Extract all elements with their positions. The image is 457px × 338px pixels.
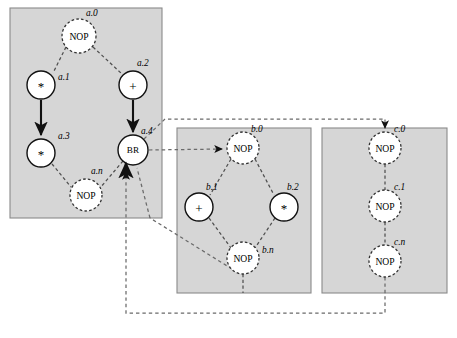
node-bn-tag: b.n xyxy=(262,245,274,255)
node-a0-label: NOP xyxy=(69,31,88,42)
node-bn-label: NOP xyxy=(233,253,252,264)
node-a3-label: * xyxy=(38,147,45,162)
node-b1-label: + xyxy=(195,201,202,216)
node-a0-tag: a.0 xyxy=(86,8,98,18)
node-cn-label: NOP xyxy=(375,256,394,267)
node-a4-label: BR xyxy=(127,145,140,155)
diagram-canvas: NOP a.0 * a.1 + a.2 * a.3 BR a.4 NOP a.n… xyxy=(0,0,457,338)
node-c1-tag: c.1 xyxy=(394,182,405,192)
node-b1-tag: b.1 xyxy=(206,182,218,192)
node-b0-label: NOP xyxy=(233,143,252,154)
node-a2-label: + xyxy=(129,79,136,94)
node-an-label: NOP xyxy=(76,190,95,201)
node-c1-label: NOP xyxy=(375,201,394,212)
node-a2-tag: a.2 xyxy=(137,58,149,68)
node-a1-label: * xyxy=(38,79,45,94)
node-a4-tag: a.4 xyxy=(141,126,153,136)
node-cn-tag: c.n xyxy=(394,237,406,247)
node-an-tag: a.n xyxy=(91,166,103,176)
node-a3-tag: a.3 xyxy=(58,131,70,141)
node-a1-tag: a.1 xyxy=(58,72,70,82)
node-b0-tag: b.0 xyxy=(251,124,263,134)
cfg-diagram: NOP a.0 * a.1 + a.2 * a.3 BR a.4 NOP a.n… xyxy=(0,0,457,338)
node-c0-tag: c.0 xyxy=(394,124,406,134)
node-c0-label: NOP xyxy=(375,143,394,154)
node-b2-tag: b.2 xyxy=(287,182,299,192)
node-b2-label: * xyxy=(281,201,288,216)
